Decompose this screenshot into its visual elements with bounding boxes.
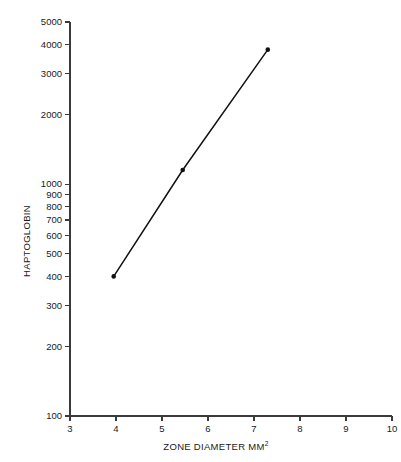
data-point	[111, 274, 116, 279]
x-tick-label: 7	[251, 423, 256, 434]
x-tick-label: 8	[297, 423, 302, 434]
haptoglobin-zone-diameter-chart: 1002003004005006007008009001000200030004…	[0, 0, 401, 462]
y-axis-title: HAPTOGLOBIN	[21, 205, 32, 277]
y-axis-ticks	[65, 22, 70, 416]
y-tick-label: 4000	[41, 39, 62, 50]
x-tick-label: 4	[113, 423, 118, 434]
data-point	[180, 168, 185, 173]
y-axis-tick-labels: 1002003004005006007008009001000200030004…	[41, 16, 62, 421]
y-tick-label: 500	[46, 248, 62, 259]
y-tick-label: 800	[46, 201, 62, 212]
y-tick-label: 1000	[41, 178, 62, 189]
x-tick-label: 10	[387, 423, 398, 434]
x-tick-label: 6	[205, 423, 210, 434]
data-series-group	[111, 47, 270, 278]
y-tick-label: 2000	[41, 109, 62, 120]
y-axis: 1002003004005006007008009001000200030004…	[41, 16, 70, 421]
y-tick-label: 100	[46, 410, 62, 421]
y-tick-label: 3000	[41, 68, 62, 79]
x-tick-label: 5	[159, 423, 164, 434]
x-axis-title-superscript: 2	[265, 440, 269, 447]
chart-figure: 1002003004005006007008009001000200030004…	[0, 0, 401, 462]
x-axis-ticks	[70, 416, 392, 421]
y-tick-label: 5000	[41, 16, 62, 27]
y-tick-label: 200	[46, 341, 62, 352]
y-tick-label: 700	[46, 214, 62, 225]
data-point	[266, 47, 271, 52]
x-axis-title-text: ZONE DIAMETER MM	[163, 441, 264, 452]
x-axis-tick-labels: 345678910	[67, 423, 397, 434]
x-axis-title: ZONE DIAMETER MM2	[163, 440, 268, 452]
series-line	[114, 50, 268, 277]
y-tick-label: 600	[46, 230, 62, 241]
y-tick-label: 900	[46, 189, 62, 200]
x-tick-label: 9	[343, 423, 348, 434]
y-tick-label: 400	[46, 271, 62, 282]
x-axis: 345678910	[67, 416, 397, 434]
x-tick-label: 3	[67, 423, 72, 434]
y-tick-label: 300	[46, 300, 62, 311]
